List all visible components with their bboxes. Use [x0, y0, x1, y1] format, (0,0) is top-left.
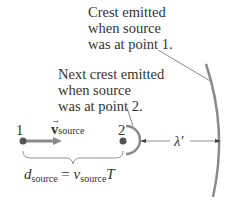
- point2-dot: [120, 138, 127, 145]
- eq-d-symbol: d: [24, 166, 32, 182]
- point1-dot: [20, 138, 27, 145]
- crest2-label-line1: Next crest emitted: [58, 66, 164, 82]
- point1-label: 1: [16, 122, 23, 138]
- crest1-leader-line: [158, 50, 212, 82]
- crest1-label: Crest emitted when source was at point 1…: [88, 4, 173, 52]
- crest1-label-line2: when source: [88, 20, 173, 36]
- crest2-label-line2: when source: [58, 82, 164, 98]
- point2-label: 2: [118, 122, 125, 138]
- velocity-subscript: source: [58, 125, 84, 136]
- velocity-symbol: v→: [51, 121, 58, 137]
- eq-v-sub: source: [80, 173, 106, 184]
- crest1-label-line3: was at point 1.: [88, 36, 173, 52]
- crest2-label-line3: was at point 2.: [58, 98, 164, 114]
- wavelength-label: λ′: [173, 133, 184, 149]
- velocity-label: v→source: [51, 121, 84, 139]
- crest1-arc: [206, 64, 219, 197]
- eq-T-symbol: T: [106, 166, 114, 182]
- eq-equals: =: [61, 166, 69, 182]
- crest2-arc: [126, 126, 140, 154]
- crest2-label: Next crest emitted when source was at po…: [58, 66, 164, 114]
- eq-d-sub: source: [32, 173, 58, 184]
- distance-equation: dsource = vsourceT: [24, 166, 115, 184]
- distance-brace: [23, 151, 123, 164]
- crest1-label-line1: Crest emitted: [88, 4, 173, 20]
